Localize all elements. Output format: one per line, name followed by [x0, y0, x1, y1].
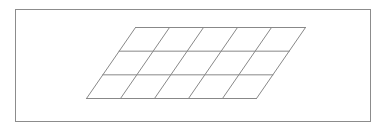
outer-border-rectangle: [16, 10, 371, 122]
figure-canvas: [0, 0, 388, 132]
parallelogram-grid-diagram: [0, 0, 388, 132]
grid-group: [87, 28, 306, 99]
